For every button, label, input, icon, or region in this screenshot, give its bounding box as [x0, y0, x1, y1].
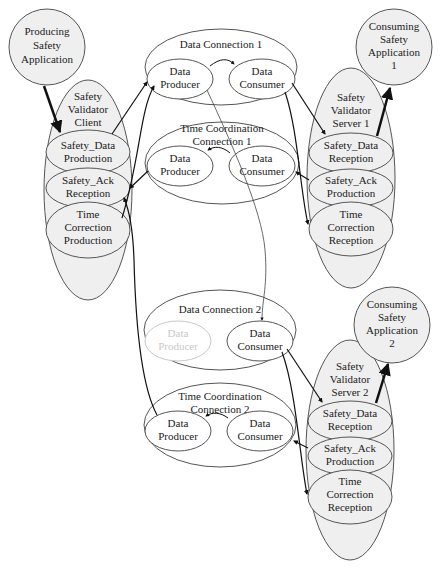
- svg-text:Consumer: Consumer: [237, 430, 283, 442]
- svg-text:Safety: Safety: [74, 90, 103, 102]
- server2-safety-data-reception: Safety_Data Reception: [308, 401, 392, 441]
- svg-text:Consuming: Consuming: [369, 20, 420, 32]
- svg-text:Correction: Correction: [327, 221, 375, 233]
- svg-text:Application: Application: [366, 324, 418, 336]
- svg-text:Validator: Validator: [68, 103, 109, 115]
- svg-text:2: 2: [389, 337, 395, 349]
- svg-text:Application: Application: [368, 46, 420, 58]
- svg-text:Producer: Producer: [160, 78, 200, 90]
- svg-text:Safety_Data: Safety_Data: [61, 139, 115, 151]
- svg-text:Application: Application: [21, 53, 73, 65]
- server1-time-correction-reception: Time Correction Reception: [309, 202, 393, 256]
- svg-text:Safety: Safety: [380, 33, 409, 45]
- svg-text:Reception: Reception: [66, 187, 111, 199]
- svg-text:Client: Client: [75, 116, 102, 128]
- data-connection-1: Data Connection 1 Data Producer Data Con…: [145, 29, 297, 105]
- svg-text:Data: Data: [252, 152, 273, 164]
- svg-text:Production: Production: [64, 152, 113, 164]
- svg-text:Producer: Producer: [158, 340, 198, 352]
- svg-text:1: 1: [391, 59, 397, 71]
- svg-text:Reception: Reception: [329, 152, 374, 164]
- svg-text:Time: Time: [339, 475, 362, 487]
- svg-text:Production: Production: [64, 234, 113, 246]
- svg-text:Time Coordination: Time Coordination: [178, 390, 262, 402]
- svg-text:Data: Data: [170, 152, 191, 164]
- svg-text:Production: Production: [326, 455, 375, 467]
- svg-text:Safety: Safety: [337, 91, 366, 103]
- svg-text:Validator: Validator: [330, 373, 371, 385]
- svg-text:Correction: Correction: [326, 488, 374, 500]
- svg-text:Connection 2: Connection 2: [191, 403, 250, 415]
- data-connection-2: Data Connection 2 Data Producer Data Con…: [144, 290, 296, 370]
- svg-text:Time: Time: [77, 208, 100, 220]
- svg-text:Safety_Data: Safety_Data: [324, 139, 378, 151]
- safety-connection-diagram: Producing Safety Application Safety Vali…: [0, 0, 445, 570]
- svg-text:Producing: Producing: [24, 25, 70, 37]
- svg-text:Producer: Producer: [158, 430, 198, 442]
- svg-text:Server 2: Server 2: [332, 386, 369, 398]
- svg-text:Server 1: Server 1: [333, 117, 370, 129]
- client-time-correction-production: Time Correction Production: [46, 202, 130, 258]
- svg-text:Production: Production: [327, 187, 376, 199]
- svg-text:Consumer: Consumer: [239, 78, 285, 90]
- server2-time-correction-reception: Time Correction Reception: [308, 470, 392, 524]
- svg-text:Safety: Safety: [33, 39, 62, 51]
- svg-text:Time: Time: [340, 208, 363, 220]
- server1-safety-data-reception: Safety_Data Reception: [309, 133, 393, 173]
- svg-text:Safety: Safety: [336, 360, 365, 372]
- svg-text:Reception: Reception: [329, 234, 374, 246]
- svg-text:Correction: Correction: [64, 221, 112, 233]
- consuming-safety-application-2: Consuming Safety Application 2: [354, 287, 430, 363]
- server1-safety-ack-production: Safety_Ack Production: [309, 169, 393, 207]
- svg-text:Safety_Ack: Safety_Ack: [62, 174, 114, 186]
- safety-validator-client: Safety Validator Client Safety_Data Prod…: [44, 80, 132, 300]
- svg-text:Consuming: Consuming: [367, 298, 418, 310]
- safety-validator-server-1: Safety Validator Server 1 Safety_Data Re…: [307, 68, 395, 288]
- svg-text:Safety_Ack: Safety_Ack: [324, 442, 376, 454]
- svg-text:Data Connection 1: Data Connection 1: [180, 38, 262, 50]
- svg-text:Data Connection 2: Data Connection 2: [179, 303, 261, 315]
- svg-text:Data: Data: [170, 65, 191, 77]
- svg-text:Connection 1: Connection 1: [193, 135, 252, 147]
- svg-text:Producer: Producer: [160, 165, 200, 177]
- svg-text:Consumer: Consumer: [239, 165, 285, 177]
- svg-text:Consumer: Consumer: [237, 340, 283, 352]
- svg-text:Safety_Ack: Safety_Ack: [325, 174, 377, 186]
- svg-text:Data: Data: [168, 417, 189, 429]
- svg-text:Data: Data: [250, 417, 271, 429]
- svg-text:Reception: Reception: [328, 501, 373, 513]
- svg-text:Reception: Reception: [328, 420, 373, 432]
- svg-text:Validator: Validator: [331, 104, 372, 116]
- svg-text:Safety: Safety: [378, 311, 407, 323]
- time-coordination-connection-1: Time Coordination Connection 1 Data Prod…: [145, 122, 299, 204]
- svg-text:Data: Data: [250, 327, 271, 339]
- svg-text:Data: Data: [168, 327, 189, 339]
- svg-text:Safety_Data: Safety_Data: [323, 407, 377, 419]
- producing-safety-application: Producing Safety Application: [9, 9, 85, 85]
- server2-safety-ack-production: Safety_Ack Production: [308, 437, 392, 475]
- svg-text:Data: Data: [252, 65, 273, 77]
- time-coordination-connection-2: Time Coordination Connection 2 Data Prod…: [144, 383, 296, 467]
- safety-validator-server-2: Safety Validator Server 2 Safety_Data Re…: [306, 340, 394, 560]
- consuming-safety-application-1: Consuming Safety Application 1: [356, 9, 432, 85]
- client-safety-data-production: Safety_Data Production: [46, 130, 130, 174]
